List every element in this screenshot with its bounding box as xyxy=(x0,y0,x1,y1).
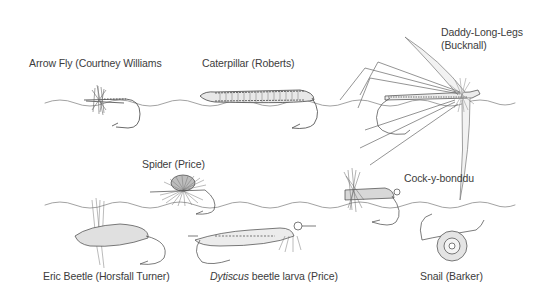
daddy-long-legs-label: Daddy-Long-Legs (Bucknall) xyxy=(441,26,523,52)
daddy-long-legs-label-line2: (Bucknall) xyxy=(441,39,523,52)
fly-patterns-illustration: Arrow Fly (Courtney Williams Caterpillar… xyxy=(0,0,560,305)
eric-beetle-drawing xyxy=(75,198,165,268)
cock-y-bonddu-label: Cock-y-bonddu xyxy=(404,172,474,185)
dytiscus-larva-drawing xyxy=(188,222,316,264)
caterpillar-label: Caterpillar (Roberts) xyxy=(202,57,294,70)
dytiscus-larva-label: Dytiscus beetle larva (Price) xyxy=(210,270,338,283)
arrow-fly-label: Arrow Fly (Courtney Williams xyxy=(29,57,162,70)
snail-label: Snail (Barker) xyxy=(420,270,483,283)
water-surface-middle xyxy=(45,202,515,208)
dytiscus-genus-italic: Dytiscus xyxy=(210,270,249,282)
eric-beetle-label: Eric Beetle (Horsfall Turner) xyxy=(43,270,170,283)
snail-drawing xyxy=(420,214,484,261)
caterpillar-drawing xyxy=(200,90,318,129)
spider-drawing xyxy=(150,175,215,214)
arrow-fly-drawing xyxy=(84,85,140,128)
daddy-long-legs-label-line1: Daddy-Long-Legs xyxy=(441,26,523,39)
cock-y-bonddu-drawing xyxy=(344,168,400,225)
spider-label: Spider (Price) xyxy=(142,158,205,171)
dytiscus-label-rest: beetle larva (Price) xyxy=(249,270,338,282)
